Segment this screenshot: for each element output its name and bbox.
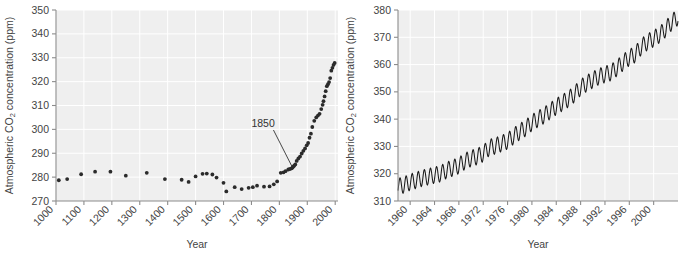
data-point	[255, 184, 259, 188]
x-axis-title: Year	[527, 238, 549, 250]
data-point	[328, 76, 332, 80]
data-point	[312, 119, 316, 123]
x-axis-tick-label: 1800	[254, 203, 279, 228]
x-axis-tick-label: 1980	[506, 203, 531, 228]
data-point	[124, 174, 128, 178]
data-point	[306, 141, 310, 145]
data-point	[57, 178, 61, 182]
data-point	[180, 178, 184, 182]
data-point	[272, 182, 276, 186]
data-point	[309, 132, 313, 136]
data-point	[324, 89, 328, 93]
y-axis-tick-label: 340	[373, 113, 391, 125]
y-axis-tick-label: 360	[373, 58, 391, 70]
data-point	[268, 185, 272, 189]
y-axis-tick-label: 330	[373, 140, 391, 152]
data-point	[251, 185, 255, 189]
y-axis-tick-label: 350	[31, 4, 49, 16]
x-axis-tick-label: 1100	[59, 203, 84, 228]
x-axis-tick-label: 1600	[198, 203, 223, 228]
y-axis-tick-label: 350	[373, 85, 391, 97]
y-axis-tick-label: 320	[373, 167, 391, 179]
data-point	[109, 170, 113, 174]
data-point	[233, 185, 237, 189]
data-point	[318, 112, 322, 116]
data-point	[224, 190, 228, 194]
data-point	[79, 172, 83, 176]
x-axis-tick-label: 1972	[458, 203, 483, 228]
x-axis-tick-label: 1400	[142, 203, 167, 228]
data-point	[262, 185, 266, 189]
y-axis-tick-label: 290	[31, 147, 49, 159]
x-axis-tick-label: 1996	[604, 203, 629, 228]
y-axis-title: Atmospheric CO2 concentration (ppm)	[344, 17, 358, 195]
x-axis-tick-label: 1984	[531, 203, 556, 228]
x-axis-tick-label: 1900	[282, 203, 307, 228]
y-axis-tick-label: 300	[31, 123, 49, 135]
y-axis-tick-label: 310	[373, 195, 391, 207]
data-point	[293, 163, 297, 167]
data-point	[308, 136, 312, 140]
data-point	[310, 125, 314, 129]
data-point	[333, 61, 337, 65]
x-axis-tick-label: 1964	[409, 203, 434, 228]
atmospheric-co2-figure: 1850270280290300310320330340350100011001…	[0, 0, 683, 253]
data-point	[145, 171, 149, 175]
chart-panel-left: 1850270280290300310320330340350100011001…	[0, 0, 341, 253]
x-axis-tick-label: 1992	[579, 203, 604, 228]
y-axis-tick-label: 330	[31, 51, 49, 63]
x-axis-tick-label: 2000	[310, 203, 335, 228]
data-point	[163, 177, 167, 181]
data-point	[187, 180, 191, 184]
x-axis-tick-label: 1500	[170, 203, 195, 228]
annotation-label: 1850	[251, 117, 275, 129]
data-point	[240, 187, 244, 191]
x-axis-tick-label: 1968	[433, 203, 458, 228]
y-axis-tick-label: 380	[373, 4, 391, 16]
y-axis-tick-label: 370	[373, 31, 391, 43]
x-axis-tick-label: 1300	[114, 203, 139, 228]
data-point	[93, 170, 97, 174]
data-point	[210, 173, 214, 177]
data-point	[215, 176, 219, 180]
x-axis-tick-label: 1988	[555, 203, 580, 228]
chart-panel-right: 3103203303403503603703801960196419681972…	[341, 0, 683, 253]
x-axis-tick-label: 2000	[628, 203, 653, 228]
x-axis-title: Year	[186, 238, 208, 250]
data-point	[321, 103, 325, 107]
y-axis-tick-label: 320	[31, 75, 49, 87]
y-axis-tick-label: 310	[31, 99, 49, 111]
x-axis-tick-label: 1700	[226, 203, 251, 228]
data-point	[319, 107, 323, 111]
x-axis-tick-label: 1200	[86, 203, 111, 228]
data-point	[247, 186, 251, 190]
data-point	[65, 177, 69, 181]
data-point	[205, 172, 209, 176]
data-point	[323, 95, 327, 99]
data-point	[327, 80, 331, 84]
data-point	[275, 180, 279, 184]
left-chart-svg: 1850270280290300310320330340350100011001…	[0, 0, 341, 253]
y-axis-tick-label: 340	[31, 27, 49, 39]
data-point	[222, 181, 226, 185]
right-chart-svg: 3103203303403503603703801960196419681972…	[341, 0, 683, 253]
y-axis-title: Atmospheric CO2 concentration (ppm)	[3, 17, 17, 195]
data-point	[322, 99, 326, 103]
x-axis-tick-label: 1976	[482, 203, 507, 228]
data-point	[194, 175, 198, 179]
data-point	[201, 172, 205, 176]
plot-area-background	[398, 10, 678, 201]
y-axis-tick-label: 280	[31, 171, 49, 183]
